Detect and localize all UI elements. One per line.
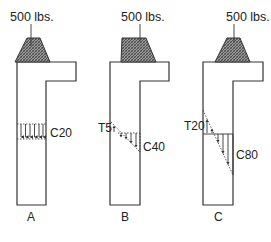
load-block xyxy=(215,38,250,62)
panel-b: 500 lbs. T5 C40 B xyxy=(98,10,169,224)
member-outline xyxy=(203,62,263,205)
stress-label-tension: T20 xyxy=(184,119,205,133)
panel-label: C xyxy=(214,210,223,224)
stress-block-uniform xyxy=(17,124,46,139)
panel-a: 500 lbs. C20 A xyxy=(10,10,76,224)
load-label: 500 lbs. xyxy=(10,10,54,24)
panel-label: B xyxy=(121,210,129,224)
member-outline xyxy=(110,62,169,205)
stress-label-compression: C40 xyxy=(143,140,165,154)
stress-label-compression: C80 xyxy=(236,148,258,162)
stress-block-linear xyxy=(111,122,140,152)
load-label: 500 lbs. xyxy=(226,10,270,24)
panel-c: 500 lbs. T20 C80 C xyxy=(184,10,270,224)
load-block xyxy=(15,38,50,62)
stress-diagram-figure: 500 lbs. C20 A 500 lbs. xyxy=(0,0,271,242)
stress-label-tension: T5 xyxy=(98,121,112,135)
load-label: 500 lbs. xyxy=(121,10,165,24)
stress-label-compression: C20 xyxy=(50,126,72,140)
load-block xyxy=(121,38,156,62)
stress-block-linear xyxy=(203,110,233,175)
panel-label: A xyxy=(27,210,35,224)
